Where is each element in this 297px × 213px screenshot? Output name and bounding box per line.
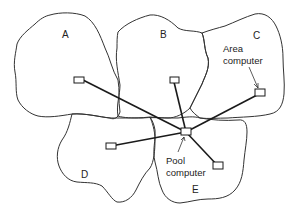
link-pool-to-d bbox=[111, 132, 186, 146]
pool-computer-label-line1: Pool bbox=[166, 155, 185, 166]
area-computer-arrow bbox=[249, 67, 258, 88]
area-computer-d bbox=[106, 143, 116, 149]
area-computer-label-line2: computer bbox=[223, 55, 263, 66]
area-computer-a bbox=[74, 77, 84, 83]
link-pool-to-e bbox=[186, 132, 218, 166]
link-pool-to-c bbox=[186, 94, 259, 132]
area-computer-b bbox=[170, 77, 179, 83]
area-computer-e bbox=[213, 162, 223, 169]
region-label-a: A bbox=[62, 29, 69, 40]
region-label-c: C bbox=[253, 30, 260, 41]
region-label-e: E bbox=[192, 184, 199, 195]
region-d-boundary bbox=[57, 114, 155, 202]
link-pool-to-b bbox=[174, 82, 186, 132]
area-computer-label-line1: Area bbox=[223, 43, 244, 54]
pool-computer-arrow bbox=[178, 137, 184, 152]
region-label-b: B bbox=[160, 29, 167, 40]
pool-computer bbox=[181, 128, 191, 135]
region-c-boundary bbox=[190, 14, 284, 119]
region-label-d: D bbox=[81, 169, 88, 180]
pool-network-diagram: A B C D E Area computer Pool computer bbox=[0, 0, 297, 213]
pool-computer-label-line2: computer bbox=[166, 167, 206, 178]
link-pool-to-a bbox=[83, 80, 186, 132]
area-computer-c bbox=[255, 89, 265, 96]
